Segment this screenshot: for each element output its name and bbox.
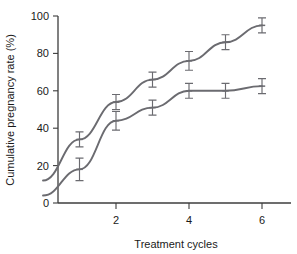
y-axis-title: Cumulative pregnancy rate (%) — [4, 34, 16, 186]
y-tick-label-100: 100 — [31, 10, 49, 22]
y-tick-label-0: 0 — [43, 197, 49, 209]
x-tick-label-6: 6 — [259, 214, 265, 226]
y-tick-label-60: 60 — [37, 85, 49, 97]
x-tick-label-4: 4 — [186, 214, 192, 226]
x-axis-title: Treatment cycles — [134, 238, 218, 250]
series-upper-series — [43, 18, 266, 181]
x-tick-label-2: 2 — [113, 214, 119, 226]
y-tick-label-80: 80 — [37, 47, 49, 59]
y-tick-label-40: 40 — [37, 122, 49, 134]
data-series-group — [43, 18, 266, 196]
chart-figure: 020406080100 246 Treatment cycles Cumula… — [0, 0, 297, 254]
x-tick-marks — [116, 203, 262, 209]
x-tick-labels: 246 — [113, 214, 265, 226]
cumulative-pregnancy-rate-line-chart: 020406080100 246 Treatment cycles Cumula… — [0, 0, 297, 254]
y-tick-label-20: 20 — [37, 160, 49, 172]
series-lower-series — [43, 79, 266, 196]
